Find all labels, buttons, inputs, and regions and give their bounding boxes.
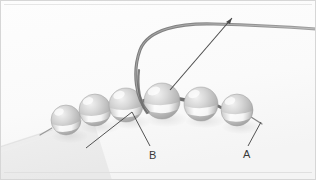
bead-1	[51, 105, 81, 135]
photo-illustration	[0, 0, 316, 180]
bead-4	[144, 83, 180, 119]
bead-2	[79, 94, 111, 126]
annotation-label-a: A	[243, 149, 251, 160]
bead-5	[184, 87, 218, 121]
instructional-photo-frame: B A	[0, 0, 316, 180]
annotation-label-b: B	[149, 150, 157, 161]
bead-6	[221, 94, 253, 126]
